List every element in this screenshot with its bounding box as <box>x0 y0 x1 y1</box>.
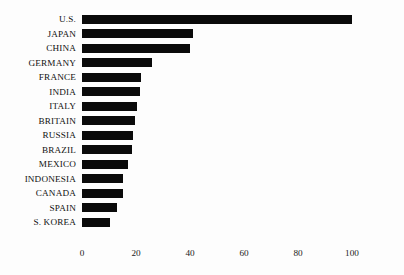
category-label: SPAIN <box>0 203 76 213</box>
bar-track <box>82 27 382 42</box>
bar <box>82 160 128 169</box>
plot-area: U.S.JAPANCHINAGERMANYFRANCEINDIAITALYBRI… <box>0 0 404 275</box>
bar-row: CHINA <box>0 41 404 56</box>
bar <box>82 58 152 67</box>
category-label: BRAZIL <box>0 145 76 155</box>
bar-row: U.S. <box>0 12 404 27</box>
bar-track <box>82 186 382 201</box>
bar-row: RUSSIA <box>0 128 404 143</box>
bar-row: BRAZIL <box>0 143 404 158</box>
bar-row: ITALY <box>0 99 404 114</box>
bar-track <box>82 143 382 158</box>
axis-tick-label: 40 <box>185 247 194 259</box>
x-axis: 020406080100 <box>82 247 382 263</box>
bar-track <box>82 201 382 216</box>
bar-track <box>82 99 382 114</box>
bar <box>82 73 141 82</box>
bar-row: CANADA <box>0 186 404 201</box>
bar-track <box>82 128 382 143</box>
bar-rows: U.S.JAPANCHINAGERMANYFRANCEINDIAITALYBRI… <box>0 12 404 230</box>
category-label: CHINA <box>0 43 76 53</box>
bar <box>82 131 133 140</box>
category-label: S. KOREA <box>0 217 76 227</box>
bar-row: INDIA <box>0 85 404 100</box>
bar-track <box>82 157 382 172</box>
bar-row: SPAIN <box>0 201 404 216</box>
category-label: GERMANY <box>0 58 76 68</box>
bar-track <box>82 70 382 85</box>
bar <box>82 29 193 38</box>
bar-track <box>82 215 382 230</box>
bar <box>82 203 117 212</box>
category-label: CANADA <box>0 188 76 198</box>
bar-track <box>82 85 382 100</box>
bar-chart: U.S.JAPANCHINAGERMANYFRANCEINDIAITALYBRI… <box>0 0 404 275</box>
category-label: INDONESIA <box>0 174 76 184</box>
bar-row: BRITAIN <box>0 114 404 129</box>
bar-track <box>82 56 382 71</box>
category-label: JAPAN <box>0 29 76 39</box>
axis-tick-label: 20 <box>131 247 140 259</box>
bar-track <box>82 12 382 27</box>
axis-tick-label: 60 <box>239 247 248 259</box>
bar <box>82 15 352 24</box>
axis-tick-label: 80 <box>293 247 302 259</box>
bar-row: FRANCE <box>0 70 404 85</box>
category-label: INDIA <box>0 87 76 97</box>
category-label: MEXICO <box>0 159 76 169</box>
category-label: U.S. <box>0 14 76 24</box>
category-label: FRANCE <box>0 72 76 82</box>
bar <box>82 174 123 183</box>
bar-track <box>82 172 382 187</box>
bar <box>82 87 140 96</box>
axis-tick-label: 100 <box>345 247 359 259</box>
bar <box>82 145 132 154</box>
bar-row: S. KOREA <box>0 215 404 230</box>
bar <box>82 44 190 53</box>
bar <box>82 189 123 198</box>
bar <box>82 102 137 111</box>
bar <box>82 218 110 227</box>
bar-track <box>82 114 382 129</box>
axis-tick-label: 0 <box>80 247 85 259</box>
bar-row: GERMANY <box>0 56 404 71</box>
bar <box>82 116 135 125</box>
bar-row: INDONESIA <box>0 172 404 187</box>
bar-track <box>82 41 382 56</box>
category-label: ITALY <box>0 101 76 111</box>
bar-row: MEXICO <box>0 157 404 172</box>
category-label: RUSSIA <box>0 130 76 140</box>
bar-row: JAPAN <box>0 27 404 42</box>
category-label: BRITAIN <box>0 116 76 126</box>
